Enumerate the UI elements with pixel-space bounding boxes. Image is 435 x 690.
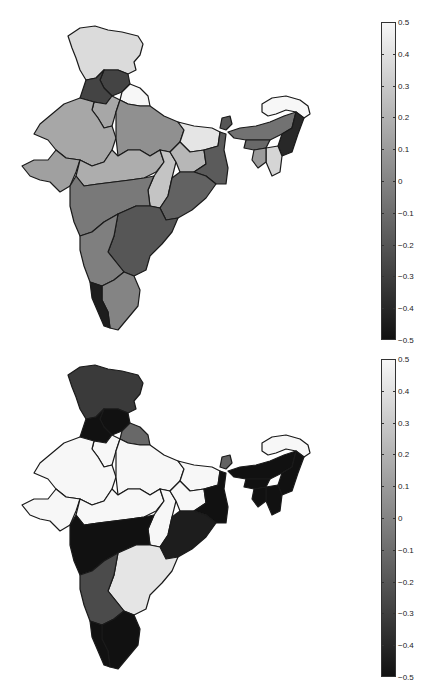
india-choropleth-map-bottom [0, 345, 370, 690]
colorbar-tick-mark [393, 550, 396, 551]
colorbar-tick-mark [393, 276, 396, 277]
colorbar-tick-mark [393, 213, 396, 214]
colorbar-tick-mark [381, 308, 384, 309]
colorbar-tick-label: −0.1 [398, 208, 414, 217]
state-region-sikkim [220, 455, 232, 469]
colorbar-tick-mark [381, 613, 384, 614]
colorbar-tick-label: 0.3 [398, 81, 409, 90]
colorbar-tick-mark [381, 645, 384, 646]
colorbar-tick-mark [393, 582, 396, 583]
colorbar-tick-mark [381, 245, 384, 246]
state-region-mizoram [266, 146, 282, 176]
colorbar-tick-label: 0.4 [398, 386, 409, 395]
colorbar-tick-mark [381, 117, 384, 118]
colorbar-tick-label: 0.1 [398, 482, 409, 491]
colorbar-tick-label: 0.1 [398, 145, 409, 154]
colorbar-tick-mark [393, 149, 396, 150]
colorbar-tick-label: −0.3 [398, 609, 414, 618]
colorbar-tick-label: 0.5 [398, 18, 409, 27]
colorbar-tick-mark [393, 86, 396, 87]
colorbar-tick-mark [381, 486, 384, 487]
colorbar-tick-mark [393, 308, 396, 309]
colorbar-tick-mark [393, 454, 396, 455]
colorbar-tick-label: −0.4 [398, 304, 414, 313]
colorbar-tick-mark [393, 54, 396, 55]
colorbar-tick-label: −0.5 [398, 336, 414, 345]
colorbar-tick-mark [381, 550, 384, 551]
colorbar-tick-label: −0.4 [398, 641, 414, 650]
colorbar-tick-mark [381, 391, 384, 392]
colorbar-tick-mark [381, 181, 384, 182]
colorbar-tick-mark [381, 86, 384, 87]
colorbar-tick-mark [393, 613, 396, 614]
colorbar-tick-mark [381, 54, 384, 55]
state-region-tripura [252, 148, 266, 168]
colorbar-tick-label: −0.1 [398, 545, 414, 554]
colorbar-tick-mark [393, 181, 396, 182]
colorbar-tick-mark [381, 423, 384, 424]
map-panel-bottom: 0.50.40.30.20.10−0.1−0.2−0.3−0.4−0.5 [0, 345, 435, 690]
colorbar-tick-label: 0 [398, 514, 402, 523]
colorbar-tick-label: −0.3 [398, 272, 414, 281]
colorbar-tick-label: 0.2 [398, 113, 409, 122]
colorbar-tick-mark [381, 518, 384, 519]
colorbar-tick-label: 0 [398, 177, 402, 186]
state-region-arunachal [262, 96, 310, 118]
colorbar-tick-mark [381, 149, 384, 150]
state-region-sikkim [220, 116, 232, 130]
colorbar-tick-mark [393, 245, 396, 246]
state-region-mizoram [266, 485, 282, 515]
colorbar-tick-mark [381, 454, 384, 455]
colorbar-tick-label: −0.2 [398, 240, 414, 249]
colorbar-tick-mark [381, 276, 384, 277]
colorbar-tick-mark [381, 582, 384, 583]
colorbar-tick-mark [393, 518, 396, 519]
colorbar-tick-label: −0.5 [398, 673, 414, 682]
colorbar-tick-mark [393, 423, 396, 424]
map-panel-top: 0.50.40.30.20.10−0.1−0.2−0.3−0.4−0.5 [0, 0, 435, 345]
colorbar-tick-mark [393, 117, 396, 118]
colorbar-tick-mark [393, 486, 396, 487]
colorbar-tick-mark [381, 213, 384, 214]
india-choropleth-map-top [0, 0, 370, 345]
colorbar-tick-mark [393, 645, 396, 646]
colorbar-tick-label: 0.3 [398, 418, 409, 427]
colorbar-tick-label: 0.4 [398, 49, 409, 58]
colorbar-tick-mark [393, 391, 396, 392]
colorbar-tick-label: 0.5 [398, 355, 409, 364]
state-region-arunachal [262, 435, 310, 457]
state-region-tripura [252, 487, 266, 507]
colorbar-tick-label: 0.2 [398, 450, 409, 459]
colorbar-tick-label: −0.2 [398, 577, 414, 586]
